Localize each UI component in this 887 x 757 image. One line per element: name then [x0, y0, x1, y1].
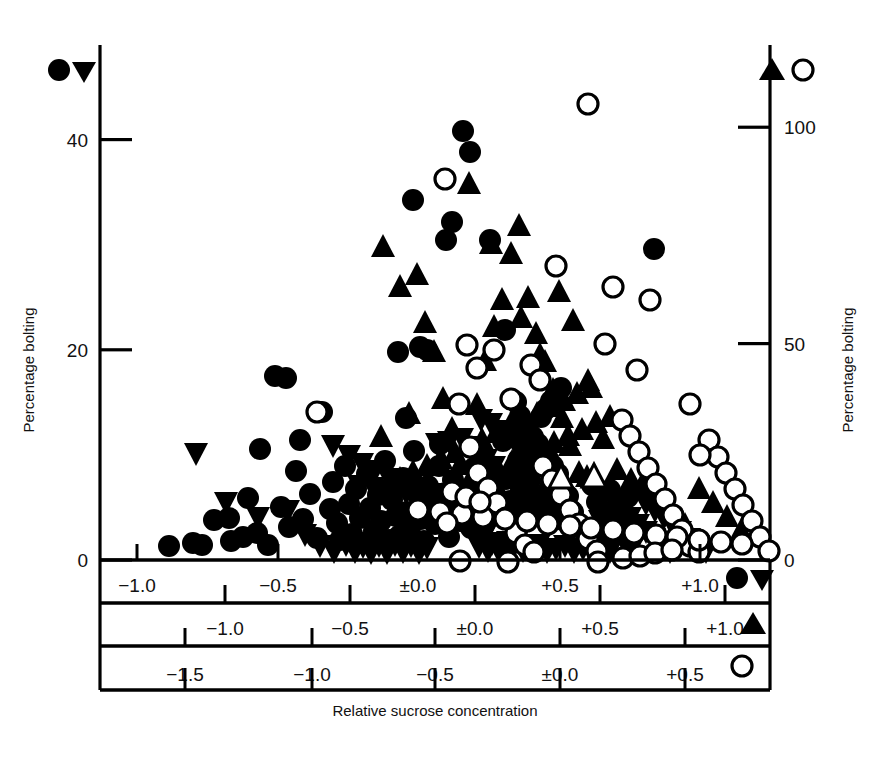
data-point-filled-circle	[452, 120, 474, 142]
data-point-filled-circle	[158, 535, 180, 557]
axis-tick-label: 50	[784, 334, 805, 355]
data-point-open-circle	[662, 540, 682, 560]
data-point-open-circle	[408, 500, 428, 520]
data-point-open-circle	[538, 514, 558, 534]
data-point-open-circle	[530, 370, 550, 390]
data-point-open-circle	[711, 532, 731, 552]
data-point-open-circle	[498, 552, 518, 572]
data-point-open-circle	[627, 360, 647, 380]
data-point-open-circle	[603, 520, 623, 540]
data-point-open-circle	[467, 358, 487, 378]
data-point-open-circle	[581, 518, 601, 538]
data-point-filled-circle	[387, 341, 409, 363]
axis-tick-label: 0	[784, 550, 795, 571]
x-axis-tick-label: −1.0	[206, 618, 244, 639]
data-point-open-circle	[578, 94, 598, 114]
data-point-open-circle	[449, 394, 469, 414]
x-axis-tick-label: +1.0	[706, 618, 744, 639]
data-point-open-circle	[595, 334, 615, 354]
data-point-filled-circle	[285, 460, 307, 482]
data-point-open-circle	[437, 513, 457, 533]
x-axis-tick-label: +0.5	[581, 618, 619, 639]
filled-circle-icon	[48, 59, 70, 81]
data-point-filled-circle	[402, 189, 424, 211]
data-point-filled-circle	[257, 534, 279, 556]
right-axis-title: Percentage bolting	[839, 307, 856, 432]
x-axis-tick-label: ±0.0	[457, 618, 494, 639]
data-point-open-circle	[640, 290, 660, 310]
filled-circle-icon	[726, 567, 748, 589]
data-point-open-circle	[501, 389, 521, 409]
data-point-open-circle	[690, 445, 710, 465]
axis-tick-label: 40	[67, 130, 88, 151]
data-point-filled-circle	[249, 438, 271, 460]
data-point-filled-circle	[289, 429, 311, 451]
data-point-open-circle	[546, 256, 566, 276]
data-point-open-circle	[517, 511, 537, 531]
data-point-open-circle	[603, 277, 623, 297]
axis-tick-label: 20	[67, 340, 88, 361]
x-axis-tick-label: +0.5	[541, 575, 579, 596]
data-point-filled-circle	[218, 507, 240, 529]
data-point-open-circle	[495, 509, 515, 529]
data-point-filled-circle	[299, 483, 321, 505]
data-point-open-circle	[435, 169, 455, 189]
data-point-filled-circle	[232, 526, 254, 548]
x-axis-tick-label: +1.0	[681, 575, 719, 596]
data-point-filled-circle	[182, 532, 204, 554]
data-point-open-circle	[732, 534, 752, 554]
scatter-plot: 02040 Percentage bolting 050100 Percenta…	[0, 0, 887, 757]
data-point-filled-circle	[643, 238, 665, 260]
data-point-filled-circle	[237, 487, 259, 509]
data-point-filled-circle	[275, 367, 297, 389]
data-point-open-circle	[588, 552, 608, 572]
x-axis-title: Relative sucrose concentration	[332, 702, 537, 719]
data-point-open-circle	[560, 516, 580, 536]
x-axis-tick-label: −0.5	[259, 575, 297, 596]
canvas-background	[0, 0, 887, 757]
data-point-open-circle	[470, 492, 490, 512]
data-point-filled-circle	[459, 141, 481, 163]
data-point-open-circle	[457, 335, 477, 355]
data-point-open-circle	[680, 394, 700, 414]
axis-tick-label: 0	[77, 550, 88, 571]
data-point-filled-circle	[441, 211, 463, 233]
figure-root: 02040 Percentage bolting 050100 Percenta…	[0, 0, 887, 757]
x-axis-tick-label: −1.0	[118, 575, 156, 596]
data-point-filled-circle	[403, 440, 425, 462]
data-point-open-circle	[460, 437, 480, 457]
axis-tick-label: 100	[784, 117, 816, 138]
left-axis-title: Percentage bolting	[20, 307, 37, 432]
x-axis-tick-label: ±0.0	[400, 575, 437, 596]
data-point-open-circle	[307, 402, 327, 422]
data-point-open-circle	[484, 340, 504, 360]
data-point-open-circle	[759, 541, 779, 561]
x-axis-tick-label: −0.5	[331, 618, 369, 639]
data-point-open-circle	[624, 523, 644, 543]
